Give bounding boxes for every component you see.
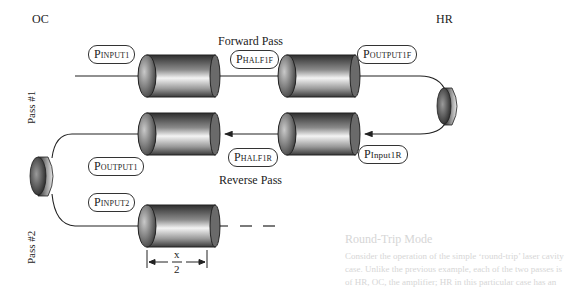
- label-main: P: [236, 52, 243, 66]
- label-sub: Input1R: [371, 150, 402, 160]
- label-sub: INPUT2: [101, 199, 130, 208]
- label-sub: HALF1F: [243, 56, 274, 65]
- amplifier-cylinder-forward-1: [138, 55, 220, 97]
- pass-1-label: Pass #1: [25, 91, 37, 124]
- label-p-half1r: PHALF1R: [228, 148, 278, 167]
- dimension-denominator: 2: [174, 263, 180, 275]
- label-p-input2: PINPUT2: [88, 193, 135, 212]
- amplifier-cylinder-pass2: [138, 205, 220, 247]
- label-main: P: [94, 47, 101, 61]
- hr-mirror-icon: [437, 88, 457, 125]
- label-main: P: [94, 159, 101, 173]
- label-main: P: [234, 150, 241, 164]
- oc-mirror-icon: [30, 157, 53, 196]
- label-sub: OUTPUT1: [101, 163, 138, 172]
- label-sub: INPUT1: [101, 51, 130, 60]
- dimension-numerator: x: [174, 248, 180, 260]
- amplifier-cylinder-forward-2: [278, 55, 360, 97]
- amplifier-cylinder-reverse-1: [138, 113, 220, 155]
- reverse-pass-label: Reverse Pass: [219, 173, 282, 188]
- forward-pass-label: Forward Pass: [218, 34, 283, 49]
- label-main: P: [94, 195, 101, 209]
- label-p-input1: PINPUT1: [88, 45, 135, 64]
- label-p-half1f: PHALF1F: [230, 50, 279, 69]
- label-p-input1r: PInput1R: [358, 145, 408, 164]
- oc-label: OC: [32, 12, 49, 27]
- hr-label: HR: [436, 12, 453, 27]
- pass-2-label: Pass #2: [25, 231, 37, 264]
- label-p-output1: POUTPUT1: [88, 157, 144, 176]
- label-main: P: [364, 147, 371, 161]
- amplifier-cylinder-reverse-2: [278, 113, 360, 155]
- label-sub: HALF1R: [241, 154, 272, 163]
- label-sub: OUTPUT1F: [370, 51, 412, 60]
- label-main: P: [363, 47, 370, 61]
- label-p-output1f: POUTPUT1F: [357, 45, 417, 64]
